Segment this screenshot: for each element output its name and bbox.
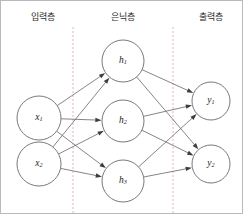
edge-h2-y2 [142, 130, 188, 152]
layer-label-3: 출력층 [199, 11, 223, 22]
network-svg: x1x2h1h2h3y1y2입력층은닉층출력층 [1, 1, 243, 214]
layer-label-2: 은닉층 [111, 12, 135, 22]
edge-h2-y1 [144, 107, 186, 117]
arrowhead-h1-y1 [187, 88, 194, 93]
arrowhead-h2-y2 [187, 151, 194, 156]
arrowhead-x2-h2 [97, 131, 104, 136]
edge-x2-h3 [61, 168, 96, 175]
edge-h1-y1 [143, 70, 188, 90]
layer-label-group: 입력층은닉층출력층 [31, 11, 223, 22]
arrowhead-x2-h3 [95, 173, 102, 177]
edge-h3-y2 [144, 169, 186, 177]
arrowhead-x1-h2 [95, 118, 101, 122]
edge-x1-h1 [58, 77, 100, 106]
arrowhead-h2-y1 [185, 105, 192, 109]
edge-x2-h2 [59, 134, 98, 154]
node-group: x1x2h1h2h3y1y2 [17, 40, 230, 202]
edge-x1-h2 [61, 119, 95, 120]
edge-h3-y1 [139, 118, 192, 166]
neural-network-figure: x1x2h1h2h3y1y2입력층은닉층출력층 [0, 0, 243, 214]
arrowhead-x1-h1 [99, 73, 105, 78]
arrowhead-x1-h3 [100, 163, 106, 168]
edge-x1-h3 [57, 132, 101, 165]
layer-label-1: 입력층 [31, 11, 55, 22]
arrowhead-h3-y2 [185, 167, 192, 171]
